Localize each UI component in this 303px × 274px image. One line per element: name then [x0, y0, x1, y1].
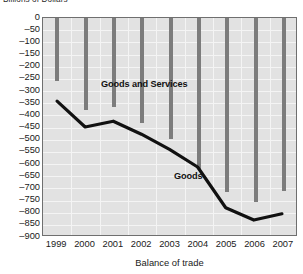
y-axis-tick-label: –850 — [2, 219, 40, 228]
y-axis-tick-label: –600 — [2, 159, 40, 168]
y-axis-tick-label: –800 — [2, 207, 40, 216]
y-axis-tick-label: –700 — [2, 183, 40, 192]
x-axis-tick-label: 2005 — [216, 239, 237, 249]
y-axis-tick-label: –300 — [2, 86, 40, 95]
y-axis-tick-label: –200 — [2, 61, 40, 70]
y-axis-tick-label: –550 — [2, 146, 40, 155]
x-axis-tick-label: 2002 — [131, 239, 152, 249]
line-series-goods — [43, 18, 296, 235]
y-axis-tick-label: –900 — [2, 232, 40, 241]
y-axis-tick-label: –350 — [2, 98, 40, 107]
x-axis-tick-label: 2001 — [102, 239, 123, 249]
y-axis-tick-label: –250 — [2, 73, 40, 82]
y-axis-tick-label: –150 — [2, 49, 40, 58]
balance-of-trade-chart: Billions of Dollars 0–50–100–150–200–250… — [0, 0, 303, 274]
x-axis-tick-label: 2007 — [272, 239, 293, 249]
x-axis-tick-labels: 199920002001200220032004200520062007 — [42, 239, 297, 253]
plot-area: Goods and Services Goods — [42, 17, 297, 236]
x-axis-tick-label: 2000 — [74, 239, 95, 249]
series-label-goods-and-services: Goods and Services — [101, 79, 188, 89]
y-axis-tick-label: –400 — [2, 110, 40, 119]
y-axis-tick-labels: 0–50–100–150–200–250–300–350–400–450–500… — [0, 0, 40, 274]
y-axis-tick-label: –750 — [2, 195, 40, 204]
y-axis-tick-label: –100 — [2, 37, 40, 46]
x-axis-tick-label: 2003 — [159, 239, 180, 249]
series-label-goods: Goods — [174, 171, 203, 181]
y-axis-tick-label: –50 — [2, 25, 40, 34]
y-axis-tick-label: 0 — [2, 13, 40, 22]
y-axis-tick-label: –500 — [2, 134, 40, 143]
chart-x-axis-title: Balance of trade — [42, 257, 297, 268]
y-axis-tick-label: –450 — [2, 122, 40, 131]
x-axis-tick-label: 1999 — [46, 239, 67, 249]
x-axis-tick-label: 2004 — [187, 239, 208, 249]
y-axis-tick-label: –650 — [2, 171, 40, 180]
x-axis-tick-label: 2006 — [244, 239, 265, 249]
goods-line-path — [57, 101, 282, 220]
